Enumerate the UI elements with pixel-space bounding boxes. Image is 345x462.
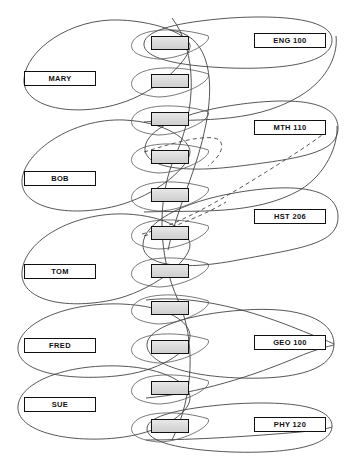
owner-label-fred[interactable]: FRED (24, 338, 96, 353)
record-fill (152, 227, 188, 239)
network-model-diagram: .c { fill:none; stroke:#383838; stroke-w… (0, 0, 345, 462)
member-label-phy120[interactable]: PHY 120 (254, 417, 326, 432)
enrollment-record-box[interactable] (151, 74, 189, 88)
record-fill (152, 341, 188, 353)
owner-label-tom[interactable]: TOM (24, 264, 96, 279)
record-fill (152, 302, 188, 314)
enrollment-record-box[interactable] (151, 381, 189, 395)
enrollment-record-box[interactable] (151, 36, 189, 50)
enrollment-record-box[interactable] (151, 340, 189, 354)
owner-label-mary[interactable]: MARY (24, 71, 96, 86)
enrollment-record-box[interactable] (151, 226, 189, 240)
member-label-eng100[interactable]: ENG 100 (254, 33, 326, 48)
record-fill (152, 189, 188, 201)
owner-label-bob[interactable]: BOB (24, 171, 96, 186)
enrollment-record-box[interactable] (151, 188, 189, 202)
record-fill (152, 151, 188, 163)
enrollment-record-box[interactable] (151, 419, 189, 433)
enrollment-record-box[interactable] (151, 112, 189, 126)
record-fill (152, 37, 188, 49)
enrollment-record-box[interactable] (151, 150, 189, 164)
owner-label-sue[interactable]: SUE (24, 397, 96, 412)
member-label-mth110[interactable]: MTH 110 (254, 120, 326, 135)
enrollment-record-box[interactable] (151, 301, 189, 315)
record-fill (152, 382, 188, 394)
enrollment-record-box[interactable] (151, 264, 189, 278)
member-label-geo100[interactable]: GEO 100 (254, 335, 326, 350)
member-label-hst206[interactable]: HST 206 (254, 209, 326, 224)
record-fill (152, 113, 188, 125)
record-fill (152, 75, 188, 87)
record-fill (152, 265, 188, 277)
record-fill (152, 420, 188, 432)
